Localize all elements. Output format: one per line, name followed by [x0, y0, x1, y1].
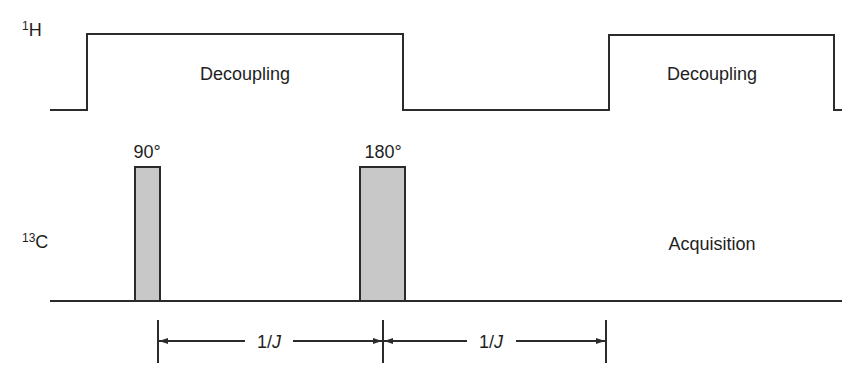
channel-label-13c: 13C — [22, 231, 48, 252]
channel-label-1h: 1H — [22, 19, 42, 40]
h-decoupling-label-2: Decoupling — [667, 64, 757, 84]
isotope-symbol: C — [35, 232, 48, 252]
delay-2-label: 1/J — [479, 332, 504, 352]
pulse-180-label: 180° — [364, 142, 401, 162]
pulse-180 — [360, 167, 405, 301]
isotope-symbol: H — [29, 20, 42, 40]
delay-1-label: 1/J — [257, 332, 282, 352]
pulse-90-label: 90° — [133, 142, 160, 162]
h-decoupling-label-1: Decoupling — [200, 64, 290, 84]
acquisition-label: Acquisition — [668, 234, 755, 254]
pulse-90 — [135, 167, 160, 301]
pulse-sequence-diagram: 1H Decoupling Decoupling 13C 90° 180° Ac… — [0, 0, 868, 381]
isotope-mass: 13 — [22, 231, 36, 245]
